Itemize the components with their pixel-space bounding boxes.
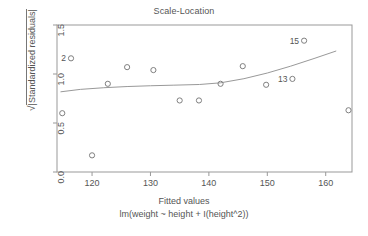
- point-label: 2: [61, 53, 66, 63]
- x-tick-label: 150: [260, 178, 275, 188]
- point-label: 13: [278, 74, 288, 84]
- x-tick-label: 160: [318, 178, 333, 188]
- plot-frame: [57, 25, 352, 172]
- data-point: [125, 65, 130, 70]
- y-tick-label: 0.0: [56, 171, 66, 191]
- data-point: [68, 56, 73, 61]
- data-point: [290, 76, 295, 81]
- data-point: [240, 64, 245, 69]
- y-tick-label: 1.0: [56, 73, 66, 93]
- data-point: [218, 81, 223, 86]
- data-point: [177, 98, 182, 103]
- data-point: [264, 82, 269, 87]
- x-tick-label: 140: [201, 178, 216, 188]
- data-point: [105, 81, 110, 86]
- data-point: [60, 111, 65, 116]
- data-point: [196, 98, 201, 103]
- data-point: [302, 38, 307, 43]
- data-point: [346, 108, 351, 113]
- data-point: [151, 67, 156, 72]
- x-tick-label: 120: [85, 178, 100, 188]
- y-tick-label: 0.5: [56, 122, 66, 142]
- data-point: [89, 153, 94, 158]
- chart-canvas: Scale-Location √|Standardized residuals|…: [0, 0, 368, 236]
- point-label: 15: [290, 36, 300, 46]
- y-tick-label: 1.5: [56, 24, 66, 44]
- lowess-smoother-line: [61, 51, 337, 92]
- x-tick-label: 130: [143, 178, 158, 188]
